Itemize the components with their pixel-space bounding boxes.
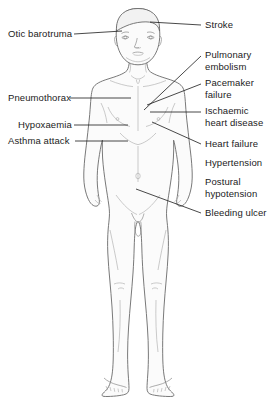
label-asthma-attack: Asthma attack xyxy=(8,135,70,147)
body-outline xyxy=(84,9,192,397)
label-hypoxaemia: Hypoxaemia xyxy=(18,119,72,131)
label-line: Pneumothorax xyxy=(8,92,71,104)
label-line: Stroke xyxy=(205,19,233,31)
label-pulmonary-embolism: Pulmonaryembolism xyxy=(205,49,251,72)
label-bleeding-ulcer: Bleeding ulcer xyxy=(205,207,267,219)
label-line: hypotension xyxy=(205,188,257,200)
label-otic-barotruma: Otic barotruma xyxy=(8,28,72,40)
label-hypertension: Hypertension xyxy=(205,157,262,169)
label-pacemaker-failure: Pacemakerfailure xyxy=(205,77,254,100)
diagram-canvas: .bodyline { fill: #fbfbfb; stroke: #6a6a… xyxy=(0,0,276,407)
label-line: Heart failure xyxy=(205,138,258,150)
label-postural-hypotension: Posturalhypotension xyxy=(205,176,257,199)
label-line: Pulmonary xyxy=(205,49,251,61)
label-line: Otic barotruma xyxy=(8,28,72,40)
label-line: Hypoxaemia xyxy=(18,119,72,131)
label-heart-failure: Heart failure xyxy=(205,138,258,150)
label-line: heart disease xyxy=(205,117,263,129)
label-line: Hypertension xyxy=(205,157,262,169)
label-ischaemic-heart-disease: Ischaemicheart disease xyxy=(205,105,263,128)
label-line: Postural xyxy=(205,176,257,188)
leader-otic-barotruma xyxy=(74,31,122,34)
label-line: Bleeding ulcer xyxy=(205,207,267,219)
label-stroke: Stroke xyxy=(205,19,233,31)
label-line: embolism xyxy=(205,61,251,73)
label-line: Pacemaker xyxy=(205,77,254,89)
label-line: Ischaemic xyxy=(205,105,263,117)
label-line: failure xyxy=(205,89,254,101)
label-pneumothorax: Pneumothorax xyxy=(8,92,71,104)
label-line: Asthma attack xyxy=(8,135,70,147)
